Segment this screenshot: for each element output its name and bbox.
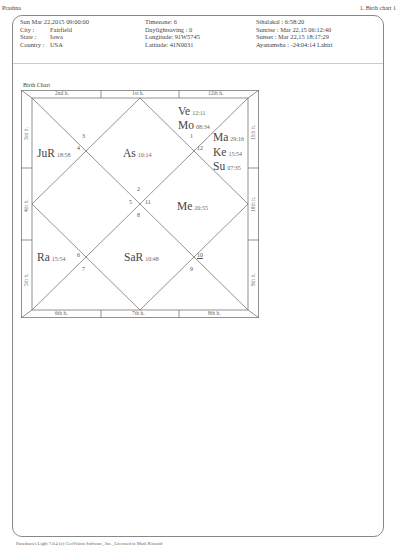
label-9th-house: 9th h. [250, 273, 256, 286]
planet-degree: 12:11 [192, 110, 205, 116]
sunset: Sunset : Mar 22,15 18:17:29 [256, 33, 333, 41]
planet-name: JuR [37, 147, 55, 159]
planet-name: Su [213, 160, 225, 172]
label-8th-house: 8th h. [208, 310, 221, 316]
country-label: Country : [20, 41, 50, 49]
label-12th-house: 12th h. [208, 90, 223, 96]
longitude: Longitude: 91W5745 [145, 33, 200, 41]
house-number-8: 8 [137, 212, 140, 218]
state-value: Iowa [50, 33, 63, 40]
house-number-7: 7 [82, 266, 85, 272]
planet-degree: 15:54 [228, 151, 242, 157]
house-number-10: 10 [197, 252, 203, 258]
label-11th-house: 11th h. [250, 125, 256, 140]
house-number-9: 9 [190, 266, 193, 272]
city-value: Fairfield [50, 26, 72, 33]
planet-ketu: Ke15:54 [213, 146, 242, 158]
planet-name: Mo [178, 119, 194, 131]
birth-chart: 2nd h. 1st h. 12th h. 6th h. 7th h. 8th … [21, 90, 259, 318]
planet-rahu: Ra15:54 [37, 251, 65, 263]
planet-name: Ve [178, 105, 190, 117]
house-number-3: 3 [82, 133, 85, 139]
planet-degree: 20:55 [194, 205, 208, 211]
chart-grid [21, 90, 259, 318]
page-label: 1. Birth chart 1 [360, 5, 396, 11]
info-col-geo: Timezone: 6 Daylightsaving : 0 Longitude… [145, 18, 200, 48]
label-6th-house: 6th h. [55, 310, 68, 316]
house-number-5: 5 [129, 199, 132, 205]
planet-ascendant: As10:14 [123, 147, 151, 159]
planet-jupiter-retro: JuR18:58 [37, 147, 71, 159]
country-row: Country :USA [20, 41, 89, 49]
planet-name: Me [177, 200, 192, 212]
planet-degree: 18:58 [57, 152, 71, 158]
timezone: Timezone: 6 [145, 18, 200, 26]
label-4th-house: 4th h. [23, 199, 29, 212]
label-7th-house: 7th h. [132, 310, 145, 316]
latitude: Latitude: 41N0031 [145, 41, 200, 49]
ayanamsha: Ayanamsha : -24:04:14 Lahiri [256, 41, 333, 49]
planet-name: Ke [213, 146, 226, 158]
house-number-11: 11 [145, 199, 151, 205]
planet-name: SaR [124, 251, 143, 263]
planet-degree: 07:35 [227, 165, 241, 171]
chart-title: Birth Chart [23, 82, 50, 88]
planet-degree: 15:54 [52, 256, 66, 262]
house-number-1: 1 [190, 133, 193, 139]
planet-sun: Su07:35 [213, 160, 241, 172]
house-number-4: 4 [77, 145, 80, 151]
sunrise: Sunrise : Mar 22,15 06:12:40 [256, 26, 333, 34]
planet-degree: 29:16 [230, 136, 244, 142]
city-label: City : [20, 26, 50, 34]
sthalakal: Sthalakal : 6:58:20 [256, 18, 333, 26]
label-2nd-house: 2nd h. [55, 90, 69, 96]
page-title: Prashna [2, 5, 21, 11]
planet-mercury: Me20:55 [177, 200, 208, 212]
label-1st-house: 1st h. [132, 90, 144, 96]
state-label: State : [20, 33, 50, 41]
country-value: USA [50, 41, 63, 48]
house-number-2: 2 [137, 186, 140, 192]
planet-venus: Ve12:11 [178, 105, 206, 117]
planet-mars: Ma29:16 [213, 131, 244, 143]
datetime: Sun Mar 22,2015 09:00:00 [20, 18, 89, 26]
daylightsaving: Daylightsaving : 0 [145, 26, 200, 34]
label-5th-house: 5th h. [23, 273, 29, 286]
label-3rd-house: 3rd h. [23, 127, 29, 140]
city-row: City :Fairfield [20, 26, 89, 34]
header-divider [13, 63, 383, 64]
info-col-datetime-place: Sun Mar 22,2015 09:00:00 City :Fairfield… [20, 18, 89, 48]
label-10th-house: 10th h. [250, 197, 256, 212]
planet-degree: 08:34 [196, 124, 210, 130]
info-col-astro: Sthalakal : 6:58:20 Sunrise : Mar 22,15 … [256, 18, 333, 48]
planet-name: As [123, 147, 136, 159]
planet-moon: Mo08:34 [178, 119, 210, 131]
planet-saturn-retro: SaR10:48 [124, 251, 159, 263]
house-number-12: 12 [197, 145, 203, 151]
house-number-6: 6 [77, 252, 80, 258]
planet-degree: 10:48 [145, 256, 159, 262]
footer-copyright: Parashara's Light 7.0.4 (c) GeoVision So… [16, 541, 162, 546]
planet-name: Ra [37, 251, 50, 263]
planet-name: Ma [213, 131, 228, 143]
state-row: State :Iowa [20, 33, 89, 41]
planet-degree: 10:14 [138, 152, 152, 158]
